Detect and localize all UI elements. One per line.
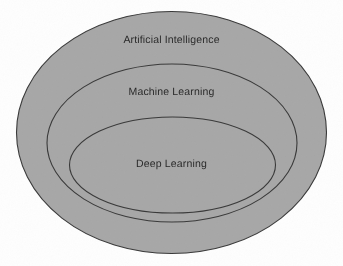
label-machine-learning: Machine Learning <box>0 86 343 98</box>
ellipse-artificial-intelligence[interactable] <box>17 12 327 254</box>
label-artificial-intelligence: Artificial Intelligence <box>0 34 343 46</box>
label-deep-learning: Deep Learning <box>0 158 343 170</box>
diagram-canvas: Artificial Intelligence Machine Learning… <box>0 0 343 266</box>
